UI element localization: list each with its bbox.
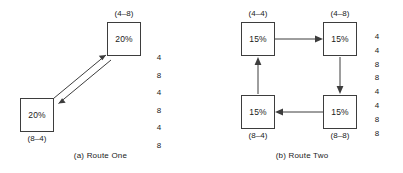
edge-4-4-to-4-8 [275,36,323,43]
sequence-digit: 8 [375,130,379,138]
sequence-digit: 4 [375,88,379,96]
edge-8-4-to-4-8 [54,55,107,99]
edge-8-8-to-8-4 [275,109,323,116]
sequence-digit: 4 [375,47,379,55]
sequence-digit: 4 [375,102,379,110]
panel-route-two: (4–4) 15% (4–8) 15% 15% (8–4) 15% (8–8) … [201,0,403,173]
node-box-a-8-4: 20% [20,98,54,132]
sequence-digit: 4 [157,89,161,97]
sequence-digit: 4 [157,124,161,132]
node-value-b-8-4: 15% [249,108,266,117]
sequence-digit: 8 [375,61,379,69]
sequence-digit: 8 [375,116,379,124]
node-label-b-8-4: (8–4) [240,132,276,140]
node-label-a-8-4: (8–4) [19,135,55,143]
node-value-a-8-4: 20% [28,111,45,120]
sequence-column-route-one: 4 8 4 8 4 8 [153,54,165,150]
panel-route-one: (4–8) 20% 20% (8–4) 4 8 4 8 4 8 (a) Rout… [0,0,201,173]
node-box-a-4-8: 20% [107,22,141,56]
node-box-b-4-4: 15% [241,22,275,56]
sequence-digit: 8 [157,142,161,150]
node-value-b-4-4: 15% [249,35,266,44]
node-label-b-8-8: (8–8) [322,132,358,140]
sequence-digit: 8 [375,74,379,82]
route-one-edges [0,0,201,173]
caption-route-one: (a) Route One [0,152,201,160]
node-box-b-8-4: 15% [241,95,275,129]
sequence-digit: 4 [375,33,379,41]
edge-4-8-to-8-8 [337,57,344,94]
edge-8-4-to-4-4 [255,57,262,94]
sequence-digit: 4 [157,54,161,62]
node-box-b-8-8: 15% [323,95,357,129]
figure-route-diagrams: (4–8) 20% 20% (8–4) 4 8 4 8 4 8 (a) Rout… [0,0,403,173]
sequence-digit: 8 [157,107,161,115]
edge-4-8-to-8-4 [59,60,112,104]
node-value-b-8-8: 15% [331,108,348,117]
node-value-b-4-8: 15% [331,35,348,44]
node-label-b-4-4: (4–4) [240,10,276,18]
node-value-a-4-8: 20% [115,35,132,44]
sequence-digit: 8 [157,72,161,80]
caption-route-two: (b) Route Two [201,152,403,160]
node-label-a-4-8: (4–8) [106,10,142,18]
node-box-b-4-8: 15% [323,22,357,56]
node-label-b-4-8: (4–8) [322,10,358,18]
sequence-column-route-two: 4 4 8 8 4 4 8 8 [371,33,383,138]
